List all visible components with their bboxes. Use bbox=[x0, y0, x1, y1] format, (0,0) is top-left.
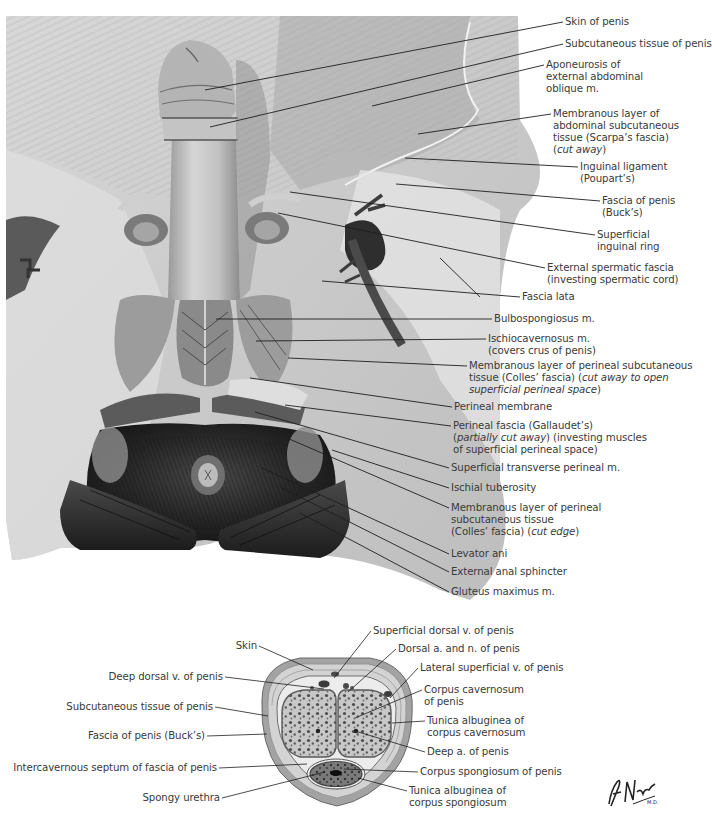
label-line: External anal sphincter bbox=[451, 566, 567, 578]
label-skin-of-penis: Skin of penis bbox=[565, 16, 629, 28]
label-ischial-tuberosity: Ischial tuberosity bbox=[451, 482, 536, 494]
label-line: Lateral superficial v. of penis bbox=[420, 662, 564, 674]
label-line: tissue (Scarpa’s fascia) bbox=[553, 132, 679, 144]
xs-label-intercavernous-septum: Intercavernous septum of fascia of penis bbox=[13, 762, 217, 774]
label-line: (Colles’ fascia) (cut edge) bbox=[451, 526, 601, 538]
label-gluteus-maximus: Gluteus maximus m. bbox=[451, 586, 555, 598]
italic-qualifier: cut away bbox=[557, 144, 602, 155]
label-line: Skin of penis bbox=[565, 16, 629, 28]
label-line: External spermatic fascia bbox=[547, 262, 678, 274]
xs-label-tunica-albuginea-spongiosum: Tunica albuginea ofcorpus spongiosum bbox=[409, 785, 506, 809]
label-line: (Buck’s) bbox=[602, 207, 675, 219]
label-line: Superficial transverse perineal m. bbox=[451, 462, 620, 474]
label-subcutaneous-tissue-of-penis: Subcutaneous tissue of penis bbox=[565, 38, 712, 50]
label-line: Tunica albuginea of bbox=[427, 715, 525, 727]
label-line: corpus cavernosum bbox=[427, 727, 525, 739]
label-line: Fascia lata bbox=[522, 291, 575, 303]
label-external-spermatic-fascia: External spermatic fascia(investing sper… bbox=[547, 262, 678, 286]
label-line: Corpus spongiosum of penis bbox=[420, 766, 562, 778]
italic-qualifier: partially cut away bbox=[457, 432, 546, 443]
label-line: Membranous layer of bbox=[553, 108, 679, 120]
penis-shaft bbox=[168, 135, 240, 300]
label-line: Ischial tuberosity bbox=[451, 482, 536, 494]
label-line: Inguinal ligament bbox=[580, 161, 667, 173]
italic-qualifier: superficial perineal space bbox=[469, 384, 597, 395]
label-colles-fascia-cut-away: Membranous layer of perineal subcutaneou… bbox=[469, 360, 692, 396]
label-levator-ani: Levator ani bbox=[451, 548, 507, 560]
leader-line bbox=[215, 707, 268, 716]
label-line: Perineal fascia (Gallaudet’s) bbox=[453, 420, 647, 432]
label-line: Dorsal a. and n. of penis bbox=[398, 643, 520, 655]
label-perineal-fascia-gallaudet: Perineal fascia (Gallaudet’s)(partially … bbox=[453, 420, 647, 456]
label-line: abdominal subcutaneous bbox=[553, 120, 679, 132]
artist-signature: F. Netter M.D. M.D. bbox=[603, 770, 659, 810]
label-line: of penis bbox=[424, 696, 524, 708]
xs-label-deep-dorsal-v: Deep dorsal v. of penis bbox=[109, 671, 223, 683]
label-scarpas-fascia: Membranous layer ofabdominal subcutaneou… bbox=[553, 108, 679, 156]
xs-label-skin: Skin bbox=[236, 640, 257, 652]
label-line: Subcutaneous tissue of penis bbox=[565, 38, 712, 50]
label-line: tissue (Colles’ fascia) (cut away to ope… bbox=[469, 372, 692, 384]
xs-label-spongy-urethra: Spongy urethra bbox=[142, 792, 220, 804]
label-line: Deep a. of penis bbox=[427, 746, 509, 758]
label-line: superficial perineal space) bbox=[469, 384, 692, 396]
label-line: Aponeurosis of bbox=[546, 59, 643, 71]
label-bulbospongiosus: Bulbospongiosus m. bbox=[494, 313, 595, 325]
label-inguinal-ligament: Inguinal ligament(Poupart’s) bbox=[580, 161, 667, 185]
label-line: (covers crus of penis) bbox=[488, 345, 596, 357]
label-aponeurosis-external-abdominal-oblique: Aponeurosis ofexternal abdominaloblique … bbox=[546, 59, 643, 95]
label-line: inguinal ring bbox=[597, 241, 659, 253]
label-line: of superficial perineal space) bbox=[453, 444, 647, 456]
leader-line bbox=[207, 734, 267, 736]
label-line: Corpus cavernosum bbox=[424, 684, 524, 696]
label-colles-fascia-cut-edge: Membranous layer of perinealsubcutaneous… bbox=[451, 502, 601, 538]
label-line: Levator ani bbox=[451, 548, 507, 560]
xs-label-deep-a-of-penis: Deep a. of penis bbox=[427, 746, 509, 758]
label-line: (investing spermatic cord) bbox=[547, 274, 678, 286]
label-line: corpus spongiosum bbox=[409, 797, 506, 809]
label-line: Perineal membrane bbox=[454, 401, 552, 413]
penis-cross-section bbox=[262, 658, 412, 806]
label-line: Bulbospongiosus m. bbox=[494, 313, 595, 325]
label-external-anal-sphincter: External anal sphincter bbox=[451, 566, 567, 578]
xs-label-subcutaneous-tissue: Subcutaneous tissue of penis bbox=[66, 701, 213, 713]
label-line: Membranous layer of perineal bbox=[451, 502, 601, 514]
xs-label-dorsal-a-and-n: Dorsal a. and n. of penis bbox=[398, 643, 520, 655]
label-line: Fascia of penis bbox=[602, 195, 675, 207]
label-superficial-inguinal-ring: Superficialinguinal ring bbox=[597, 229, 659, 253]
label-line: Tunica albuginea of bbox=[409, 785, 506, 797]
label-line: (Poupart’s) bbox=[580, 173, 667, 185]
label-line: (partially cut away) (investing muscles bbox=[453, 432, 647, 444]
xs-label-superficial-dorsal-v: Superficial dorsal v. of penis bbox=[373, 625, 514, 637]
label-perineal-membrane: Perineal membrane bbox=[454, 401, 552, 413]
label-line: Superficial dorsal v. of penis bbox=[373, 625, 514, 637]
label-fascia-lata: Fascia lata bbox=[522, 291, 575, 303]
svg-text:M.D.: M.D. bbox=[647, 799, 659, 805]
label-line: Superficial bbox=[597, 229, 659, 241]
xs-label-corpus-cavernosum: Corpus cavernosumof penis bbox=[424, 684, 524, 708]
italic-qualifier: cut away to open bbox=[582, 372, 669, 383]
label-line: Membranous layer of perineal subcutaneou… bbox=[469, 360, 692, 372]
label-line: oblique m. bbox=[546, 83, 643, 95]
label-line: Ischiocavernosus m. bbox=[488, 333, 596, 345]
label-line: Gluteus maximus m. bbox=[451, 586, 555, 598]
xs-label-lateral-superficial-v: Lateral superficial v. of penis bbox=[420, 662, 564, 674]
label-line: subcutaneous tissue bbox=[451, 514, 601, 526]
label-ischiocavernosus: Ischiocavernosus m.(covers crus of penis… bbox=[488, 333, 596, 357]
xs-label-corpus-spongiosum: Corpus spongiosum of penis bbox=[420, 766, 562, 778]
xs-label-tunica-albuginea-cavernosum: Tunica albuginea ofcorpus cavernosum bbox=[427, 715, 525, 739]
label-fascia-of-penis-bucks: Fascia of penis(Buck’s) bbox=[602, 195, 675, 219]
italic-qualifier: cut edge bbox=[531, 526, 575, 537]
label-line: (cut away) bbox=[553, 144, 679, 156]
label-superficial-transverse-perineal: Superficial transverse perineal m. bbox=[451, 462, 620, 474]
xs-label-fascia-of-penis: Fascia of penis (Buck’s) bbox=[88, 730, 205, 742]
label-line: external abdominal bbox=[546, 71, 643, 83]
